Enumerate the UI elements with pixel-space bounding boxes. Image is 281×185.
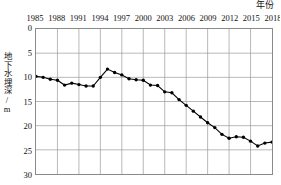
x-tick-label-1991: 1991 [70, 12, 87, 24]
data-point-1997 [120, 73, 123, 76]
data-point-1986 [41, 76, 44, 79]
y-tick-label-30: 30 [24, 171, 33, 180]
data-point-2000 [142, 79, 145, 82]
data-point-2016 [256, 144, 259, 147]
x-tick-label-1988: 1988 [48, 12, 65, 24]
data-point-2007 [192, 109, 195, 112]
data-point-2001 [149, 83, 152, 86]
data-point-2015 [249, 139, 252, 142]
data-point-2013 [235, 135, 238, 138]
y-axis-tick-labels: 051015202530 [14, 0, 32, 185]
data-point-2010 [213, 126, 216, 129]
data-point-1993 [92, 84, 95, 87]
data-point-2002 [156, 84, 159, 87]
data-point-2009 [206, 121, 209, 124]
x-tick-label-2009: 2009 [200, 12, 217, 24]
data-point-1987 [49, 78, 52, 81]
data-point-2018 [270, 140, 272, 143]
y-tick-label-15: 15 [24, 97, 33, 106]
data-point-1996 [113, 71, 116, 74]
y-tick-label-25: 25 [24, 146, 33, 155]
data-point-1991 [77, 83, 80, 86]
x-tick-label-2000: 2000 [135, 12, 152, 24]
data-point-1989 [63, 83, 66, 86]
data-point-2003 [163, 90, 166, 93]
chart-figure: 年份 1985198819911994199720002003200620092… [0, 0, 280, 185]
data-point-1998 [127, 77, 130, 80]
data-point-2011 [220, 133, 223, 136]
data-point-1994 [99, 76, 102, 79]
x-tick-label-1997: 1997 [113, 12, 130, 24]
series-line-groundwater-depth [36, 69, 272, 146]
data-point-2006 [184, 104, 187, 107]
x-tick-label-1994: 1994 [91, 12, 108, 24]
data-point-2004 [170, 91, 173, 94]
x-tick-label-2018: 2018 [265, 12, 281, 24]
y-tick-label-20: 20 [24, 122, 33, 131]
data-point-2005 [177, 98, 180, 101]
y-tick-label-0: 0 [28, 24, 32, 33]
data-point-1992 [84, 84, 87, 87]
data-point-1990 [70, 81, 73, 84]
x-tick-label-2006: 2006 [178, 12, 195, 24]
data-point-2014 [242, 136, 245, 139]
plot-area [35, 28, 273, 175]
data-point-2008 [199, 115, 202, 118]
x-tick-label-2015: 2015 [243, 12, 260, 24]
data-point-1988 [56, 79, 59, 82]
data-point-2012 [227, 137, 230, 140]
y-tick-label-10: 10 [24, 73, 33, 82]
x-axis-title: 年份 [256, 0, 274, 10]
data-point-2017 [263, 141, 266, 144]
data-point-1999 [134, 78, 137, 81]
x-tick-label-2003: 2003 [156, 12, 173, 24]
y-axis-title: 地下水埋深/m [0, 52, 11, 114]
groundwater-depth-line-chart [36, 29, 272, 174]
x-tick-label-2012: 2012 [221, 12, 238, 24]
data-point-1995 [106, 67, 109, 70]
y-tick-label-5: 5 [28, 48, 32, 57]
x-axis-tick-labels: 1985198819911994199720002003200620092012… [0, 12, 280, 24]
